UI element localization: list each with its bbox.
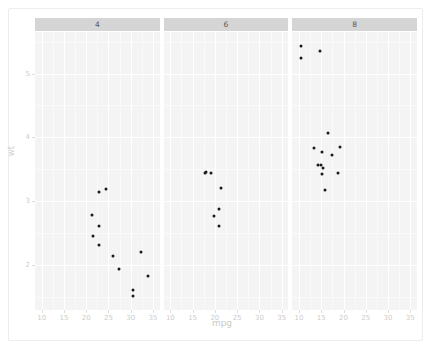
- x-tick-mark: [282, 310, 283, 313]
- gridline-major-y: [35, 137, 160, 138]
- data-point: [322, 167, 325, 170]
- gridline-minor-y: [292, 297, 417, 298]
- facet-strip-label: 8: [352, 21, 357, 29]
- x-tick-mark: [42, 310, 43, 313]
- plot-area-6: [164, 32, 289, 310]
- plot-area-8: [292, 32, 417, 310]
- data-point: [131, 295, 134, 298]
- data-point: [323, 189, 326, 192]
- data-point: [338, 146, 341, 149]
- x-tick-mark: [170, 310, 171, 313]
- gridline-minor-y: [35, 297, 160, 298]
- data-point: [111, 255, 114, 258]
- data-point: [321, 172, 324, 175]
- data-point: [330, 153, 333, 156]
- gridline-minor-y: [35, 233, 160, 234]
- gridline-minor-y: [164, 169, 289, 170]
- data-point: [91, 234, 94, 237]
- gridline-major-y: [35, 74, 160, 75]
- data-point: [312, 146, 315, 149]
- gridline-minor-y: [292, 105, 417, 106]
- gridline-minor-y: [164, 42, 289, 43]
- data-point: [97, 243, 100, 246]
- y-axis: 2345: [18, 32, 35, 310]
- gridline-minor-y: [164, 233, 289, 234]
- x-tick-mark: [193, 310, 194, 313]
- facet-panel-6: 6: [164, 18, 289, 310]
- gridline-major-y: [164, 74, 289, 75]
- plot-area-4: [35, 32, 160, 310]
- data-point: [299, 45, 302, 48]
- data-point: [218, 224, 221, 227]
- gridline-major-y: [35, 201, 160, 202]
- data-point: [318, 50, 321, 53]
- x-tick-mark: [410, 310, 411, 313]
- data-point: [220, 186, 223, 189]
- data-point: [204, 172, 207, 175]
- x-tick-mark: [131, 310, 132, 313]
- gridline-minor-y: [164, 105, 289, 106]
- x-tick-mark: [299, 310, 300, 313]
- data-point: [97, 190, 100, 193]
- data-point: [97, 224, 100, 227]
- x-tick-mark: [344, 310, 345, 313]
- data-point: [91, 214, 94, 217]
- facet-strip-4: 4: [35, 18, 160, 31]
- data-point: [131, 288, 134, 291]
- gridline-minor-y: [292, 169, 417, 170]
- facet-strip-8: 8: [292, 18, 417, 31]
- gridline-major-y: [164, 137, 289, 138]
- gridline-major-y: [164, 201, 289, 202]
- data-point: [320, 163, 323, 166]
- x-axis-title: mpg: [22, 318, 422, 328]
- facet-strip-label: 6: [224, 21, 229, 29]
- facet-panel-4: 4: [35, 18, 160, 310]
- facet-strip-6: 6: [164, 18, 289, 31]
- data-point: [212, 215, 215, 218]
- y-axis-title-text: wt: [6, 146, 16, 156]
- facet-strip-label: 4: [95, 21, 100, 29]
- x-tick-mark: [259, 310, 260, 313]
- gridline-major-y: [164, 265, 289, 266]
- x-tick-mark: [108, 310, 109, 313]
- x-tick-mark: [366, 310, 367, 313]
- data-point: [326, 131, 329, 134]
- x-tick-mark: [64, 310, 65, 313]
- x-tick-mark: [321, 310, 322, 313]
- gridline-minor-y: [35, 42, 160, 43]
- x-tick-mark: [215, 310, 216, 313]
- data-point: [104, 188, 107, 191]
- gridline-major-y: [292, 265, 417, 266]
- x-tick-mark: [86, 310, 87, 313]
- data-point: [147, 274, 150, 277]
- y-tick-label: 3: [26, 197, 30, 205]
- gridline-major-y: [35, 265, 160, 266]
- data-point: [336, 172, 339, 175]
- data-point: [299, 56, 302, 59]
- data-point: [321, 150, 324, 153]
- gridline-major-y: [292, 137, 417, 138]
- data-point: [140, 251, 143, 254]
- gridline-minor-y: [292, 233, 417, 234]
- x-tick-mark: [153, 310, 154, 313]
- gridline-major-y: [292, 201, 417, 202]
- x-tick-mark: [388, 310, 389, 313]
- scatter-plot-figure: wt 2345 468 1015202530351015202530351015…: [0, 0, 433, 350]
- data-point: [210, 172, 213, 175]
- data-point: [117, 268, 120, 271]
- y-tick-label: 4: [26, 133, 30, 141]
- y-tick-label: 5: [26, 70, 30, 78]
- gridline-minor-y: [35, 169, 160, 170]
- gridline-minor-y: [35, 105, 160, 106]
- facet-panel-8: 8: [292, 18, 417, 310]
- facet-panel-grid: 468: [35, 18, 417, 310]
- gridline-major-y: [292, 74, 417, 75]
- y-tick-label: 2: [26, 261, 30, 269]
- data-point: [218, 208, 221, 211]
- gridline-minor-y: [292, 42, 417, 43]
- gridline-minor-y: [164, 297, 289, 298]
- x-tick-mark: [237, 310, 238, 313]
